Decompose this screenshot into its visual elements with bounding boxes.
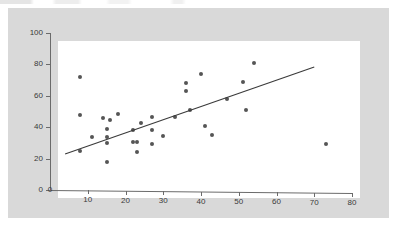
screenshot-root: 02040608010001020304050607080 (0, 0, 397, 230)
regression-trendline (65, 67, 314, 154)
trendline-layer (0, 0, 397, 230)
